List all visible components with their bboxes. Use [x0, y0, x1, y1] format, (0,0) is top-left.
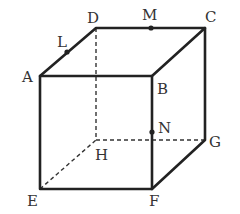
label-A: A: [21, 68, 33, 86]
label-L: L: [57, 33, 67, 51]
label-G: G: [209, 133, 221, 151]
point-M: [148, 25, 153, 30]
label-M: M: [142, 6, 157, 24]
label-C: C: [205, 8, 216, 26]
label-D: D: [87, 9, 99, 27]
label-B: B: [157, 80, 168, 98]
label-H: H: [95, 146, 108, 164]
label-E: E: [27, 192, 38, 210]
label-F: F: [149, 192, 159, 210]
cube-diagram: A B C D E F G H L M N: [0, 0, 240, 214]
point-N: [149, 129, 154, 134]
label-N: N: [158, 119, 171, 137]
edge-EH: [40, 140, 96, 189]
